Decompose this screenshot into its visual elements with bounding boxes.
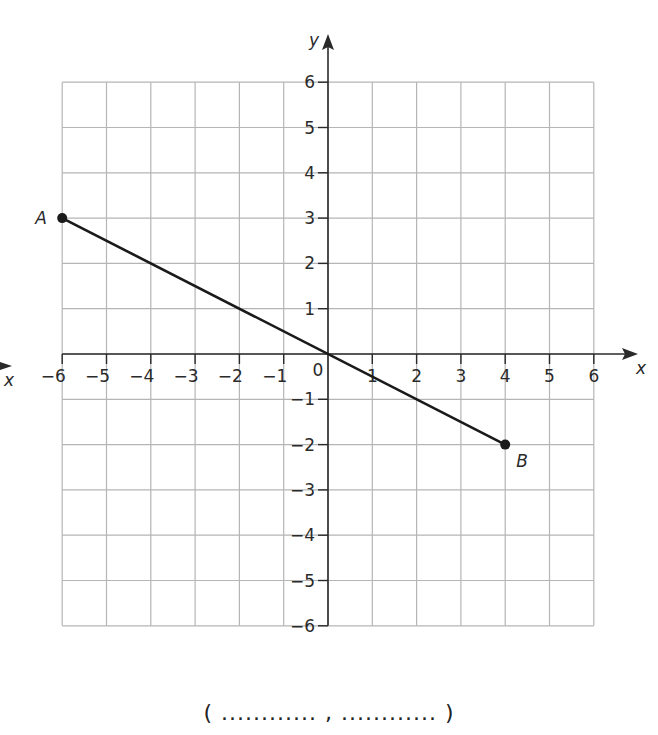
x-tick-label: 6	[588, 366, 599, 386]
y-tick-label: 5	[304, 118, 315, 138]
y-tick-label: −2	[290, 435, 315, 455]
point-b-label: B	[516, 451, 528, 471]
y-tick-label: 1	[304, 299, 315, 319]
point-a-label: A	[34, 208, 47, 228]
y-tick-label: 4	[304, 163, 315, 183]
x-tick-label: 4	[500, 366, 511, 386]
y-axis-label: y	[308, 30, 320, 50]
x-tick-label: 5	[544, 366, 555, 386]
origin-label: 0	[313, 360, 324, 380]
x-axis-label: x	[635, 358, 647, 378]
x-axis-label-left: x	[3, 370, 15, 390]
coordinate-grid: −6−5−4−3−2−1123456654321−1−2−3−4−5−60xyx…	[0, 0, 658, 735]
y-tick-label: 2	[304, 253, 315, 273]
x-tick-label: 2	[411, 366, 422, 386]
y-tick-label: −6	[290, 616, 315, 636]
left-arrow-fragment-icon	[0, 362, 12, 370]
x-tick-label: −3	[174, 366, 199, 386]
x-tick-label: 3	[455, 366, 466, 386]
point-a-dot	[57, 213, 67, 223]
y-tick-label: −5	[290, 571, 315, 591]
y-tick-label: −3	[290, 480, 315, 500]
x-tick-label: −5	[85, 366, 110, 386]
x-tick-label: −6	[41, 366, 66, 386]
y-tick-label: 6	[304, 72, 315, 92]
point-b-dot	[500, 440, 510, 450]
x-tick-label: −2	[218, 366, 243, 386]
x-tick-label: −1	[262, 366, 287, 386]
y-tick-label: −4	[290, 525, 315, 545]
y-tick-label: −1	[290, 389, 315, 409]
answer-blank: ( ............ , ............ )	[0, 700, 658, 725]
y-tick-label: 3	[304, 208, 315, 228]
x-tick-label: −4	[129, 366, 154, 386]
